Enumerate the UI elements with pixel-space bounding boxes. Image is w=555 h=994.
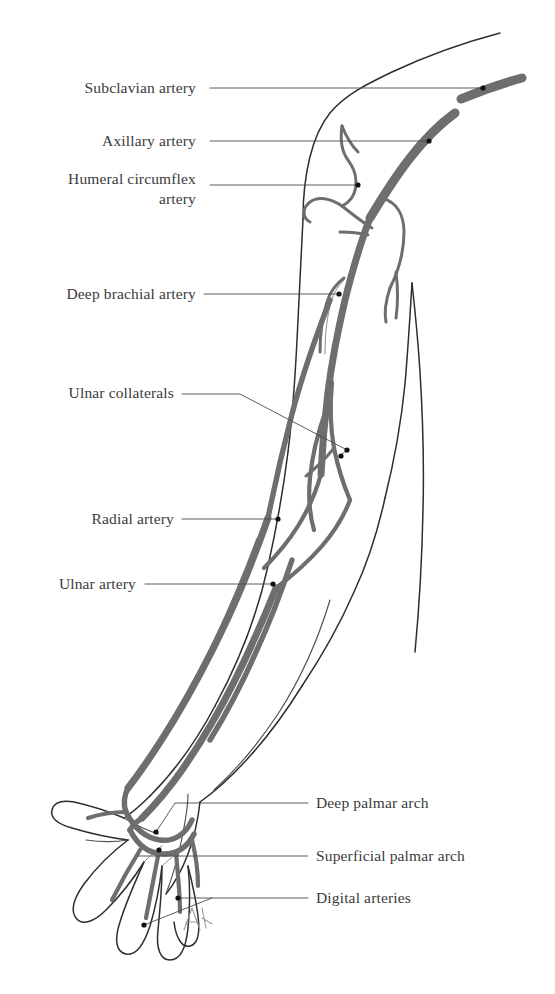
leader-deep-palmar-arch — [156, 803, 308, 832]
leader-dot-digital-arteries-2 — [141, 922, 146, 927]
forearm-medial-contour — [150, 706, 215, 796]
forearm-accessory-branch — [164, 540, 258, 734]
index-finger-outline — [73, 840, 144, 922]
leader-dot-humeral-circumflex-artery — [355, 182, 360, 187]
label-axillary-artery: Axillary artery — [102, 132, 196, 149]
label-digital-arteries: Digital arteries — [316, 889, 411, 906]
label-ulnar-collaterals: Ulnar collaterals — [69, 384, 174, 401]
leader-dot-deep-palmar-arch — [153, 829, 158, 834]
humeral-circumflex-hook — [304, 199, 342, 222]
leader-dot-ulnar-artery — [270, 581, 275, 586]
leader-dot-ulnar-collaterals-2 — [338, 453, 343, 458]
upper-arm-lateral-contour — [385, 283, 412, 498]
humeral-circumflex-branch-upper — [342, 126, 358, 152]
label-superficial-palmar-arch: Superficial palmar arch — [316, 847, 465, 864]
radial-to-deep-arch — [124, 788, 128, 812]
thumb-inner-line — [86, 840, 128, 842]
anterior-circumflex-tail — [385, 288, 390, 322]
leader-dot-axillary-artery — [426, 138, 431, 143]
label-deep-palmar-arch: Deep palmar arch — [316, 794, 429, 811]
arterial-supply-diagram: Subclavian artery Axillary artery Humera… — [0, 0, 555, 994]
thumb-outline — [52, 801, 128, 840]
anterior-circumflex-loop — [382, 198, 404, 288]
label-humeral-circumflex-artery-line2: artery — [159, 190, 196, 207]
axillary-artery-path — [370, 113, 455, 218]
digital-artery-ring — [176, 854, 180, 912]
label-ulnar-artery: Ulnar artery — [59, 575, 136, 592]
label-deep-brachial-artery: Deep brachial artery — [66, 285, 196, 302]
leader-dot-radial-artery — [275, 516, 280, 521]
forearm-inner-line — [214, 600, 330, 790]
label-humeral-circumflex-artery: Humeral circumflex — [68, 170, 196, 187]
leader-dot-ulnar-collaterals-1 — [344, 447, 349, 452]
leader-dot-superficial-palmar-arch — [156, 847, 161, 852]
leader-dot-deep-brachial-artery — [336, 291, 341, 296]
shoulder-contour — [303, 33, 500, 219]
leader-dot-digital-arteries-1 — [175, 895, 180, 900]
brachial-artery-path — [321, 218, 370, 474]
forearm-lateral-contour — [200, 686, 302, 802]
label-radial-artery: Radial artery — [92, 510, 175, 527]
digital-artery-little — [192, 840, 198, 886]
leader-dot-subclavian-artery — [480, 85, 485, 90]
superior-ulnar-collateral-path — [331, 382, 350, 500]
digital-artery-middle — [146, 856, 158, 918]
axilla-fold — [412, 283, 423, 652]
anterior-circumflex-tail-2 — [396, 272, 398, 318]
label-text-group: Subclavian artery Axillary artery Humera… — [59, 79, 465, 906]
subclavian-artery-path — [461, 78, 522, 99]
label-subclavian-artery: Subclavian artery — [85, 79, 197, 96]
